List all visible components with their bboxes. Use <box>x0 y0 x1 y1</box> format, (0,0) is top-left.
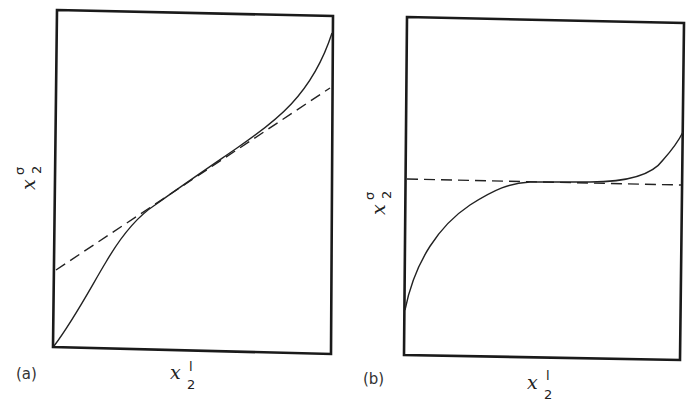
panel-a-frame <box>53 10 333 354</box>
panel-a-curve <box>54 33 332 346</box>
panel-a: (a) x l 2 x σ 2 <box>12 10 333 392</box>
svg-text:2: 2 <box>29 166 44 174</box>
panel-a-y-axis-label: x σ 2 <box>12 166 44 190</box>
svg-text:l: l <box>189 359 193 374</box>
svg-text:σ: σ <box>362 192 377 200</box>
svg-text:2: 2 <box>187 377 195 392</box>
svg-text:x: x <box>527 371 538 393</box>
panel-a-x-axis-label: x l 2 <box>170 359 195 392</box>
svg-text:l: l <box>546 368 550 383</box>
svg-text:x: x <box>367 204 389 215</box>
panel-b-curve <box>405 132 683 310</box>
panel-b: (b) x l 2 x σ 2 <box>362 17 684 402</box>
svg-text:2: 2 <box>379 191 394 199</box>
svg-text:2: 2 <box>544 387 552 402</box>
svg-text:x: x <box>17 179 39 190</box>
figure: (a) x l 2 x σ 2 (b) x l 2 x σ 2 <box>0 0 691 404</box>
svg-text:σ: σ <box>12 167 27 175</box>
panel-a-label: (a) <box>16 365 37 383</box>
svg-text:x: x <box>170 361 181 383</box>
panel-b-label: (b) <box>363 370 384 388</box>
panel-b-y-axis-label: x σ 2 <box>362 191 394 215</box>
panel-b-frame <box>404 17 684 360</box>
panel-b-x-axis-label: x l 2 <box>527 368 552 402</box>
